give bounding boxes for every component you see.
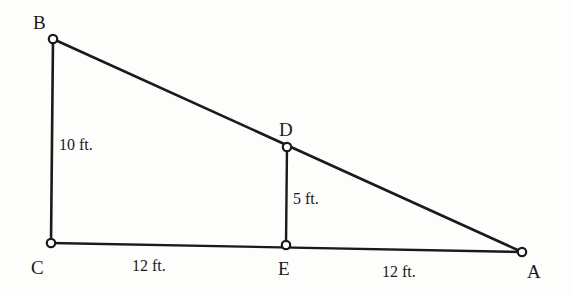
vertex-marker-E bbox=[282, 241, 290, 249]
measurement-label-ce: 12 ft. bbox=[132, 258, 166, 274]
vertex-marker-A bbox=[518, 248, 526, 256]
segment-bc bbox=[51, 39, 53, 243]
vertex-label-e: E bbox=[278, 259, 290, 278]
measurement-label-bc: 10 ft. bbox=[59, 137, 93, 153]
measurement-label-de: 5 ft. bbox=[293, 191, 319, 207]
vertex-marker-D bbox=[283, 143, 291, 151]
measurement-label-ea: 12 ft. bbox=[382, 264, 416, 280]
vertex-label-c: C bbox=[31, 258, 44, 277]
vertex-label-d: D bbox=[279, 120, 293, 139]
vertex-marker-B bbox=[49, 35, 57, 43]
vertex-marker-C bbox=[47, 239, 55, 247]
segment-de bbox=[286, 147, 287, 245]
geometry-figure: B C D E A 10 ft. 5 ft. 12 ft. 12 ft. bbox=[0, 0, 572, 297]
vertex-label-a: A bbox=[527, 262, 541, 281]
vertex-label-b: B bbox=[33, 13, 46, 32]
